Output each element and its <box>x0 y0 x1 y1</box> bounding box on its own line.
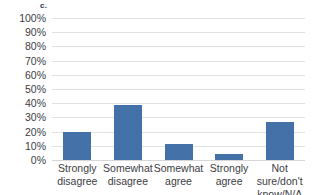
axis-baseline <box>52 160 305 161</box>
y-axis-tick-label: 30% <box>25 112 46 122</box>
y-axis-tick-label: 60% <box>25 70 46 80</box>
bar <box>266 122 294 160</box>
bar <box>63 132 91 160</box>
y-axis-tick-label: 70% <box>25 56 46 66</box>
bar <box>165 144 193 160</box>
x-axis-tick-line: Not sure/don't <box>248 162 311 188</box>
y-axis-tick-label: 90% <box>25 27 46 37</box>
x-axis-tick-label: Not sure/don'tknow/N/A <box>248 162 311 195</box>
bar <box>114 105 142 160</box>
y-axis-tick-label: 20% <box>25 127 46 137</box>
y-axis-tick-label: 100% <box>19 13 46 23</box>
y-axis-tick-label: 50% <box>25 84 46 94</box>
x-axis: StronglydisagreeSomewhatdisagreeSomewhat… <box>52 162 305 195</box>
panel-label: c. <box>40 1 47 10</box>
y-axis-tick-label: 0% <box>31 155 46 165</box>
bar-chart-figure: c. 100%90%80%70%60%50%40%30%20%10%0% Str… <box>0 0 327 195</box>
y-axis: 100%90%80%70%60%50%40%30%20%10%0% <box>0 18 49 160</box>
x-axis-tick-line: know/N/A <box>248 188 311 195</box>
y-axis-tick-label: 80% <box>25 41 46 51</box>
bar <box>215 154 243 160</box>
bars-layer <box>52 18 305 160</box>
y-axis-tick-label: 10% <box>25 141 46 151</box>
y-axis-tick-label: 40% <box>25 98 46 108</box>
